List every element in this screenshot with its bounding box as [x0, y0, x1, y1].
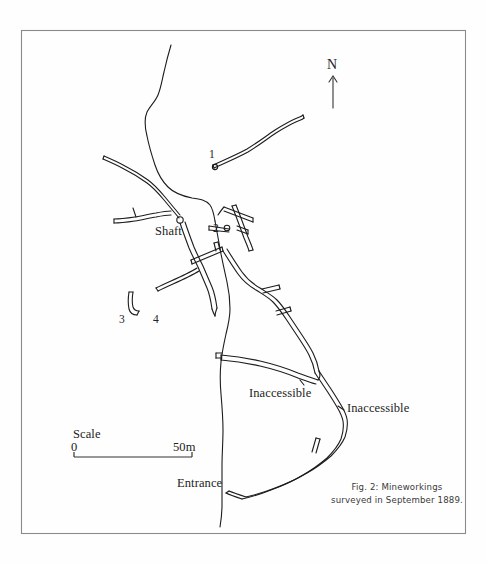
- passage-northwest-inner: [103, 159, 179, 218]
- station-4-label: 4: [153, 313, 159, 326]
- north-label: N: [327, 57, 337, 72]
- passage-southeast-spur-a: [262, 285, 279, 289]
- passage-trunk-east-tail: [215, 308, 217, 316]
- passage-network: [103, 45, 347, 527]
- passage-3-cap-end: [137, 311, 139, 315]
- passage-midlevel-outer: [221, 355, 318, 380]
- passage-southeast-inner: [227, 249, 319, 371]
- passage-4-outer: [156, 268, 197, 288]
- passage-loop-spur-a: [312, 438, 316, 452]
- inaccessible-label-1: Inaccessible: [249, 387, 311, 401]
- passage-cross2-arm-e-a: [237, 226, 248, 230]
- passage-northeast-outer: [213, 115, 303, 165]
- passage-southeast-outer: [223, 251, 315, 373]
- scale-start-label: 0: [71, 441, 77, 455]
- passage-entrance-outer: [226, 493, 242, 499]
- inaccessible-1-pointer: [300, 380, 304, 385]
- passage-4-end-cap: [156, 288, 158, 291]
- entrance-label: Entrance: [177, 477, 222, 491]
- station-1-label: 1: [209, 148, 215, 161]
- passage-southeast-spur-cap: [279, 285, 280, 289]
- passage-cross2-arm-se-cap: [249, 250, 253, 251]
- passage-northeast-inner: [214, 118, 304, 168]
- passage-4-inner: [158, 271, 199, 291]
- passage-3-hook-inner: [132, 292, 139, 311]
- passage-entrance-cap: [226, 491, 229, 493]
- passage-shaft-gallery-outer: [114, 211, 171, 219]
- passage-northwest-end: [103, 156, 104, 159]
- scale-title: Scale: [73, 428, 101, 442]
- passage-cross2-arm-nw: [218, 207, 224, 215]
- passage-cross2-arm-se-b: [236, 205, 253, 250]
- passage-cross2-arm-n-cap: [232, 205, 236, 206]
- caption-line-2: surveyed in September 1889.: [327, 494, 467, 507]
- passage-cross2-arm-w-a: [209, 226, 229, 229]
- north-arrow-icon: [329, 76, 337, 108]
- passage-southeast-spur2-cap: [290, 307, 291, 311]
- caption-line-1: Fig. 2: Mineworkings: [327, 481, 467, 494]
- passage-junction-cross-cap-w: [191, 260, 192, 264]
- figure-container: N 1 2 3 4 Shaft Inaccessible Inaccessibl…: [0, 0, 487, 563]
- station-2-label: 2: [213, 222, 219, 235]
- shaft-label: Shaft: [155, 225, 182, 239]
- passage-junction-cross-cap-e: [222, 247, 223, 251]
- passage-north-upper: [145, 45, 215, 221]
- passage-trunk-west: [180, 223, 212, 309]
- figure-border: [22, 31, 466, 534]
- passage-junction-north-stub-cap: [214, 242, 218, 243]
- station-3-label: 3: [119, 313, 125, 326]
- scale-end-label: 50m: [173, 441, 196, 455]
- passage-northeast-end: [303, 115, 304, 118]
- passage-loop-spur-cap: [316, 438, 320, 439]
- passage-shaft-branch: [133, 208, 136, 217]
- figure-caption: Fig. 2: Mineworkings surveyed in Septemb…: [327, 481, 467, 507]
- inaccessible-label-2: Inaccessible: [347, 402, 409, 416]
- passage-entrance-inner: [229, 491, 246, 497]
- passage-loop-spur-b: [316, 439, 320, 453]
- shaft-symbol-circle: [177, 217, 183, 223]
- passage-trunk-east: [185, 222, 217, 308]
- mine-survey-drawing: [0, 0, 487, 563]
